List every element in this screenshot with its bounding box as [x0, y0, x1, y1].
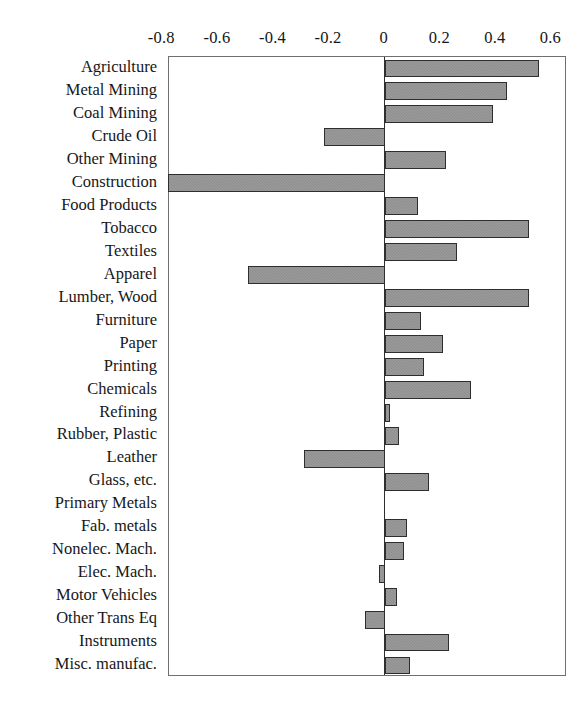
bar-row — [169, 172, 565, 195]
category-label: Tobacco — [0, 217, 164, 240]
bar-row — [169, 195, 565, 218]
bar — [385, 519, 407, 537]
bar — [385, 151, 446, 169]
bar-row — [169, 356, 565, 379]
category-label: Refining — [0, 400, 164, 423]
bar — [385, 105, 493, 123]
category-label: Chemicals — [0, 377, 164, 400]
x-tick-label: 0.2 — [429, 28, 450, 48]
bar — [385, 312, 421, 330]
bar — [168, 174, 385, 192]
bar-row — [169, 310, 565, 333]
category-label: Metal Mining — [0, 79, 164, 102]
bar — [385, 220, 530, 238]
bar — [385, 381, 471, 399]
bar — [385, 634, 449, 652]
category-label: Instruments — [0, 630, 164, 653]
bar-row — [169, 401, 565, 424]
bar-row — [169, 631, 565, 654]
category-label: Misc. manufac. — [0, 653, 164, 676]
x-tick-label: 0 — [379, 28, 387, 48]
bar-row — [169, 103, 565, 126]
category-label: Fab. metals — [0, 515, 164, 538]
category-label: Leather — [0, 446, 164, 469]
bar-row — [169, 585, 565, 608]
x-tick-label: -0.8 — [148, 28, 175, 48]
category-label: Furniture — [0, 308, 164, 331]
bar-row — [169, 539, 565, 562]
bar-row — [169, 424, 565, 447]
bar-row — [169, 378, 565, 401]
bar — [385, 82, 507, 100]
bar — [324, 128, 385, 146]
category-label: Other Trans Eq — [0, 607, 164, 630]
bar-row — [169, 608, 565, 631]
category-label: Printing — [0, 354, 164, 377]
bar — [385, 427, 399, 445]
category-label: Lumber, Wood — [0, 286, 164, 309]
category-label: Other Mining — [0, 148, 164, 171]
bar-row — [169, 516, 565, 539]
category-label: Motor Vehicles — [0, 584, 164, 607]
bar — [385, 404, 391, 422]
bar — [385, 197, 418, 215]
category-label: Crude Oil — [0, 125, 164, 148]
bar-row — [169, 218, 565, 241]
bar-row — [169, 149, 565, 172]
x-axis-top: -0.8-0.6-0.4-0.200.20.40.6 — [0, 0, 583, 56]
bar-row — [169, 264, 565, 287]
bar-row — [169, 333, 565, 356]
category-label: Paper — [0, 331, 164, 354]
category-label: Coal Mining — [0, 102, 164, 125]
bar-row — [169, 562, 565, 585]
bar — [385, 243, 457, 261]
category-label: Rubber, Plastic — [0, 423, 164, 446]
bar-row — [169, 447, 565, 470]
bar — [385, 335, 443, 353]
bar-row — [169, 126, 565, 149]
bar-row — [169, 470, 565, 493]
x-tick-label: -0.2 — [315, 28, 342, 48]
category-label: Nonelec. Mach. — [0, 538, 164, 561]
category-label: Primary Metals — [0, 492, 164, 515]
x-tick-label: 0.6 — [540, 28, 561, 48]
bar — [385, 358, 424, 376]
category-label: Glass, etc. — [0, 469, 164, 492]
bar — [365, 611, 384, 629]
zero-line — [384, 57, 385, 675]
bar-chart: -0.8-0.6-0.4-0.200.20.40.6 AgricultureMe… — [0, 0, 583, 701]
category-axis-labels: AgricultureMetal MiningCoal MiningCrude … — [0, 56, 164, 676]
category-label: Food Products — [0, 194, 164, 217]
bar — [385, 60, 539, 78]
bars-layer — [169, 57, 565, 675]
bar-row — [169, 80, 565, 103]
plot-area — [168, 56, 566, 676]
x-tick-label: -0.4 — [259, 28, 286, 48]
bar-row — [169, 287, 565, 310]
bar-row — [169, 493, 565, 516]
bar-row — [169, 654, 565, 677]
category-label: Elec. Mach. — [0, 561, 164, 584]
x-tick-label: -0.6 — [203, 28, 230, 48]
category-label: Construction — [0, 171, 164, 194]
bar-row — [169, 241, 565, 264]
category-label: Agriculture — [0, 56, 164, 79]
bar — [385, 289, 530, 307]
category-label: Apparel — [0, 263, 164, 286]
bar — [385, 542, 404, 560]
bar — [385, 657, 410, 675]
bar — [304, 450, 385, 468]
category-label: Textiles — [0, 240, 164, 263]
bar — [248, 266, 384, 284]
x-tick-label: 0.4 — [484, 28, 505, 48]
bar — [385, 588, 398, 606]
bar-row — [169, 57, 565, 80]
bar — [385, 473, 429, 491]
